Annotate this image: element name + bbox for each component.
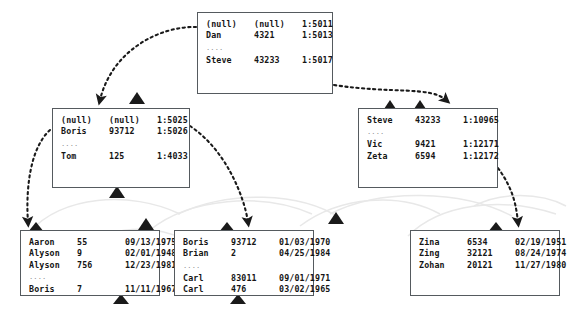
table-row: Zohan2012111/27/1980 [419,260,551,271]
row-ellipsis: .... [29,271,151,284]
cell-value: 93712 [109,126,157,137]
cell-value: 93712 [231,237,279,248]
cell-value: 32121 [467,248,515,259]
cell-key: Boris [29,284,77,295]
table-row: Steve432331:5017 [206,55,324,66]
cell-value: 83011 [231,273,279,284]
cell-value: 55 [77,237,125,248]
cell-value: 2 [231,248,279,259]
table-row: Dan43211:5013 [206,30,324,41]
cell-value: 125 [109,151,157,162]
cell-pointer: 1:12172 [463,151,499,162]
cell-pointer: 1:5017 [302,55,333,66]
row-ellipsis: .... [206,42,324,55]
table-row: Carl47603/02/1965 [183,284,305,295]
cell-date: 01/03/1970 [279,237,330,248]
cell-key: Alyson [29,248,77,259]
cell-date: 12/23/1981 [125,260,176,271]
cell-value: 9421 [415,139,463,150]
cell-key: Vic [367,139,415,150]
cell-value: 6594 [415,151,463,162]
table-row: Aaron5509/13/1975 [29,237,151,248]
cell-date: 11/27/1980 [515,260,566,271]
cell-key: Steve [206,55,254,66]
table-row: Carl8301109/01/1971 [183,273,305,284]
cell-pointer: 1:5025 [157,115,188,126]
table-row: Vic94211:12171 [367,139,489,150]
table-row: Tom1251:4033 [61,151,181,162]
cell-date: 09/01/1971 [279,273,330,284]
cell-value: 20121 [467,260,515,271]
table-row: Zing3212108/24/1974 [419,248,551,259]
table-row: Brian204/25/1984 [183,248,305,259]
cell-key: Carl [183,273,231,284]
cell-value: 43233 [254,55,302,66]
node-rows: (null)(null)1:5011 Dan43211:5013 .... St… [198,13,332,70]
leaf-data-node-1[interactable]: Aaron5509/13/1975 Alyson902/01/1948 Alys… [20,230,160,296]
node-rows: Aaron5509/13/1975 Alyson902/01/1948 Alys… [21,231,159,300]
cell-date: 04/25/1984 [279,248,330,259]
node-rows: Zina653402/19/1951 Zing3212108/24/1974 Z… [411,231,559,275]
cell-pointer: 1:5013 [302,30,333,41]
cell-date: 11/11/1967 [125,284,176,295]
cell-key: (null) [206,19,254,30]
leaf-data-node-2[interactable]: Boris9371201/03/1970 Brian204/25/1984 ..… [174,230,314,296]
table-row: Alyson75612/23/1981 [29,260,151,271]
cell-key: Tom [61,151,109,162]
row-ellipsis: .... [183,260,305,273]
cell-date: 02/19/1951 [515,237,566,248]
table-row: Zina653402/19/1951 [419,237,551,248]
btree-diagram-canvas: (null)(null)1:5011 Dan43211:5013 .... St… [0,0,576,334]
cell-pointer: 1:5011 [302,19,333,30]
cell-date: 03/02/1965 [279,284,330,295]
table-row: (null)(null)1:5025 [61,115,181,126]
cell-date: 08/24/1974 [515,248,566,259]
cell-key: Steve [367,115,415,126]
cell-key: Aaron [29,237,77,248]
table-row: Boris937121:5026 [61,126,181,137]
table-row: Boris9371201/03/1970 [183,237,305,248]
cell-key: Alyson [29,260,77,271]
cell-key: Carl [183,284,231,295]
table-row: Alyson902/01/1948 [29,248,151,259]
cell-key: Boris [61,126,109,137]
cell-key: Brian [183,248,231,259]
cell-date: 09/13/1975 [125,237,176,248]
cell-value: 476 [231,284,279,295]
row-ellipsis: .... [367,126,489,139]
node-rows: Steve432331:10965 .... Vic94211:12171 Ze… [359,109,497,166]
table-row: Boris711/11/1967 [29,284,151,295]
table-row: Zeta65941:12172 [367,151,489,162]
node-rows: Boris9371201/03/1970 Brian204/25/1984 ..… [175,231,313,300]
cell-pointer: 1:5026 [157,126,188,137]
intermediate-index-node-left[interactable]: (null)(null)1:5025 Boris937121:5026 ....… [52,108,190,188]
cell-key: Zina [419,237,467,248]
cell-pointer: 1:10965 [463,115,499,126]
cell-pointer: 1:4033 [157,151,188,162]
cell-date: 02/01/1948 [125,248,176,259]
cell-key: Zeta [367,151,415,162]
leaf-data-node-3[interactable]: Zina653402/19/1951 Zing3212108/24/1974 Z… [410,230,560,296]
table-row: (null)(null)1:5011 [206,19,324,30]
cell-value: 756 [77,260,125,271]
table-row: Steve432331:10965 [367,115,489,126]
node-rows: (null)(null)1:5025 Boris937121:5026 ....… [53,109,189,166]
cell-value: (null) [254,19,302,30]
cell-key: Dan [206,30,254,41]
cell-key: Zing [419,248,467,259]
cell-value: (null) [109,115,157,126]
cell-key: (null) [61,115,109,126]
cell-value: 7 [77,284,125,295]
row-ellipsis: .... [61,138,181,151]
cell-value: 9 [77,248,125,259]
intermediate-index-node-right[interactable]: Steve432331:10965 .... Vic94211:12171 Ze… [358,108,498,188]
cell-value: 4321 [254,30,302,41]
cell-key: Boris [183,237,231,248]
cell-value: 6534 [467,237,515,248]
cell-pointer: 1:12171 [463,139,499,150]
cell-value: 43233 [415,115,463,126]
root-index-node[interactable]: (null)(null)1:5011 Dan43211:5013 .... St… [197,12,333,94]
cell-key: Zohan [419,260,467,271]
